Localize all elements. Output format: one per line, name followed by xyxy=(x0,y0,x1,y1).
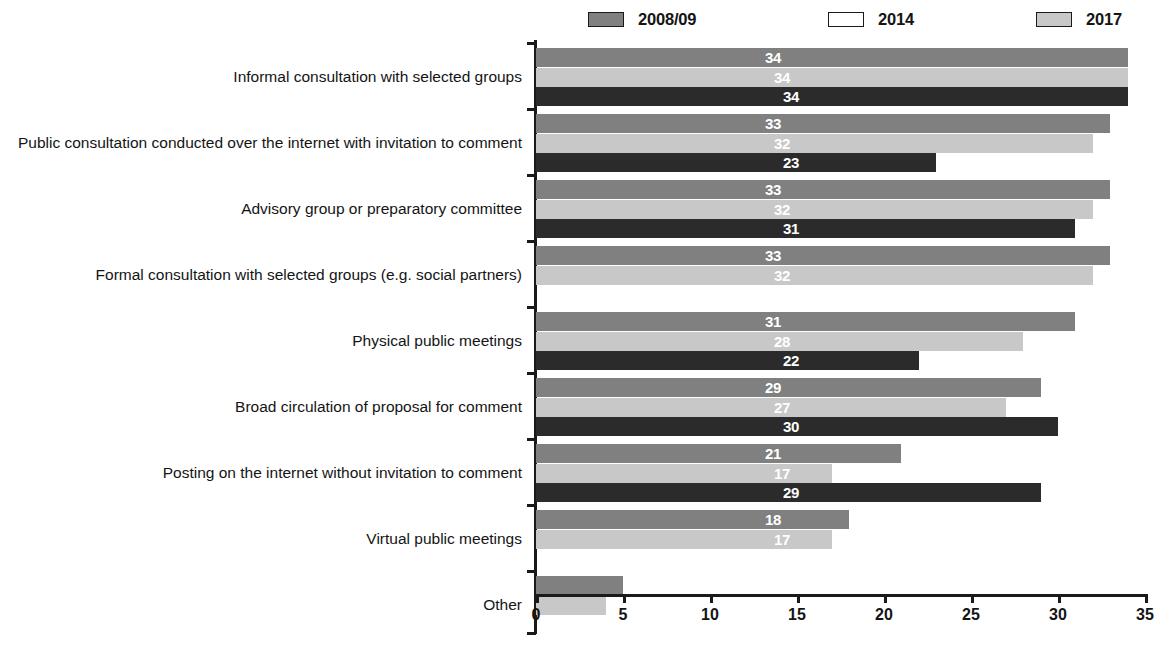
category-axis-tick xyxy=(527,438,536,441)
bar-group: 3332 xyxy=(536,246,1145,305)
value-axis: 05101520253035 xyxy=(534,594,1145,626)
value-axis-tick-label: 25 xyxy=(962,606,980,624)
bar-group: 333231 xyxy=(536,180,1145,239)
category-label: Physical public meetings xyxy=(0,332,522,350)
chart-legend: 2008/09 2014 2017 xyxy=(0,0,1145,40)
value-axis-tick xyxy=(536,594,539,603)
bar-value-label: 33 xyxy=(747,246,781,265)
bar-value-label: 29 xyxy=(765,483,799,502)
bar xyxy=(536,200,1093,219)
legend-label-2017: 2017 xyxy=(1086,10,1122,29)
bar-value-label: 32 xyxy=(756,200,790,219)
bar xyxy=(536,351,919,370)
legend-swatch-2008-09 xyxy=(588,12,624,27)
bar xyxy=(536,114,1110,133)
bar xyxy=(536,48,1128,67)
category-label: Informal consultation with selected grou… xyxy=(0,68,522,86)
bar-value-label: 34 xyxy=(747,48,781,67)
category-axis-labels: Informal consultation with selected grou… xyxy=(0,40,530,634)
category-axis-tick xyxy=(527,504,536,507)
legend-label-2008-09: 2008/09 xyxy=(638,10,696,29)
bar-value-label: 29 xyxy=(747,378,781,397)
value-axis-tick xyxy=(710,594,713,603)
category-label: Public consultation conducted over the i… xyxy=(0,134,522,152)
legend-item-2014: 2014 xyxy=(828,9,914,29)
value-axis-tick xyxy=(1058,594,1061,603)
category-axis-tick xyxy=(527,372,536,375)
category-label: Formal consultation with selected groups… xyxy=(0,266,522,284)
category-label: Broad circulation of proposal for commen… xyxy=(0,398,522,416)
value-axis-tick xyxy=(1145,594,1148,603)
bar-group: 343434 xyxy=(536,48,1145,107)
bar xyxy=(536,444,901,463)
value-axis-tick xyxy=(884,594,887,603)
bar-group: 292730 xyxy=(536,378,1145,437)
bar-value-label: 34 xyxy=(756,68,790,87)
value-axis-tick-label: 10 xyxy=(701,606,719,624)
legend-swatch-2017 xyxy=(1036,12,1072,27)
bar xyxy=(536,180,1110,199)
category-label: Virtual public meetings xyxy=(0,530,522,548)
plot-area: 3434343332233332313332312822292730211729… xyxy=(534,40,1145,634)
value-axis-tick-label: 5 xyxy=(619,606,628,624)
bar-group: 1817 xyxy=(536,510,1145,569)
legend-item-2017: 2017 xyxy=(1036,9,1122,29)
value-axis-tick-label: 35 xyxy=(1136,606,1154,624)
bar xyxy=(536,266,1093,285)
bar-group: 211729 xyxy=(536,444,1145,503)
bar-value-label: 23 xyxy=(765,153,799,172)
bar-value-label: 32 xyxy=(756,134,790,153)
bar-value-label: 34 xyxy=(765,87,799,106)
category-axis-tick xyxy=(527,570,536,573)
bar xyxy=(536,312,1075,331)
category-axis-tick xyxy=(527,108,536,111)
category-axis-tick xyxy=(527,632,536,635)
bar xyxy=(536,576,623,595)
bar-value-label: 17 xyxy=(756,464,790,483)
bar xyxy=(536,153,936,172)
value-axis-tick xyxy=(971,594,974,603)
legend-label-2014: 2014 xyxy=(878,10,914,29)
bar-value-label: 27 xyxy=(756,398,790,417)
category-label: Advisory group or preparatory committee xyxy=(0,200,522,218)
value-axis-tick xyxy=(623,594,626,603)
bar-value-label: 31 xyxy=(765,219,799,238)
bar-value-label: 28 xyxy=(756,332,790,351)
bar-value-label: 21 xyxy=(747,444,781,463)
bar xyxy=(536,510,849,529)
value-axis-tick-label: 30 xyxy=(1049,606,1067,624)
bar-value-label: 33 xyxy=(747,180,781,199)
category-axis-tick xyxy=(527,240,536,243)
bar xyxy=(536,87,1128,106)
value-axis-tick xyxy=(797,594,800,603)
category-axis-tick xyxy=(527,306,536,309)
legend-swatch-2014 xyxy=(828,12,864,27)
bar-value-label: 22 xyxy=(765,351,799,370)
category-label: Other xyxy=(0,596,522,614)
value-axis-line-horizontal xyxy=(534,594,1145,597)
bar xyxy=(536,246,1110,265)
bar-value-label: 5 xyxy=(747,576,781,595)
bar xyxy=(536,68,1128,87)
category-label: Posting on the internet without invitati… xyxy=(0,464,522,482)
value-axis-tick-label: 15 xyxy=(788,606,806,624)
bar-value-label: 31 xyxy=(747,312,781,331)
bar xyxy=(536,378,1041,397)
category-axis-tick xyxy=(527,42,536,45)
bar xyxy=(536,134,1093,153)
bar-value-label: 30 xyxy=(765,417,799,436)
bar xyxy=(536,219,1075,238)
category-axis-tick xyxy=(527,174,536,177)
bar-group: 333223 xyxy=(536,114,1145,173)
legend-item-2008-09: 2008/09 xyxy=(588,9,696,29)
value-axis-tick-label: 0 xyxy=(532,606,541,624)
bar-value-label: 18 xyxy=(747,510,781,529)
bar-value-label: 17 xyxy=(756,530,790,549)
bar-value-label: 33 xyxy=(747,114,781,133)
bar-group: 312822 xyxy=(536,312,1145,371)
bar-chart: Informal consultation with selected grou… xyxy=(0,40,1145,666)
bar-value-label: 32 xyxy=(756,266,790,285)
value-axis-tick-label: 20 xyxy=(875,606,893,624)
